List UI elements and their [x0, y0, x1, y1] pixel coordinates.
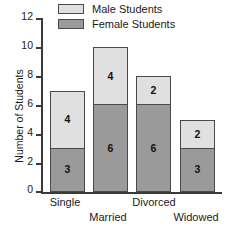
x-axis-line — [41, 192, 222, 194]
y-tick-12: 12 — [36, 18, 41, 20]
y-tick-8: 8 — [36, 76, 41, 78]
y-tick-label-0: 0 — [27, 184, 33, 195]
bar-married-segment-male: 4 — [93, 47, 128, 105]
y-axis-line — [41, 18, 43, 192]
stacked-bar-chart: Male Students Female Students Number of … — [0, 0, 227, 233]
bar-single-female-value: 3 — [65, 164, 71, 175]
bar-widowed[interactable]: 2 3 — [180, 120, 215, 193]
y-tick-2: 2 — [36, 163, 41, 165]
bar-married[interactable]: 4 6 — [93, 47, 128, 192]
bar-married-male-value: 4 — [108, 71, 114, 82]
x-label-divorced: Divorced — [120, 196, 188, 208]
x-label-widowed: Widowed — [163, 211, 227, 223]
bar-widowed-male-value: 2 — [195, 129, 201, 140]
bar-widowed-segment-female: 3 — [180, 149, 215, 193]
y-tick-label-8: 8 — [27, 69, 33, 80]
y-tick-label-2: 2 — [27, 156, 33, 167]
bar-married-female-value: 6 — [108, 143, 114, 154]
bar-married-segment-female: 6 — [93, 105, 128, 192]
y-tick-label-4: 4 — [27, 127, 33, 138]
y-tick-6: 6 — [36, 105, 41, 107]
bar-divorced-female-value: 6 — [151, 143, 157, 154]
plot-area: 12 10 8 6 4 2 0 4 3 — [41, 18, 222, 192]
bar-divorced-segment-female: 6 — [136, 105, 171, 192]
bar-widowed-segment-male: 2 — [180, 120, 215, 149]
x-label-married: Married — [78, 211, 138, 223]
y-tick-0: 0 — [36, 191, 41, 193]
y-tick-label-6: 6 — [27, 98, 33, 109]
x-label-single: Single — [35, 196, 95, 208]
y-tick-label-12: 12 — [21, 11, 33, 22]
y-tick-label-10: 10 — [21, 40, 33, 51]
y-tick-10: 10 — [36, 47, 41, 49]
legend-item-male: Male Students — [58, 2, 208, 16]
legend-swatch-male-icon — [58, 4, 84, 14]
y-axis-title: Number of Students — [13, 41, 25, 191]
bar-widowed-female-value: 3 — [195, 164, 201, 175]
y-tick-4: 4 — [36, 134, 41, 136]
bar-divorced-male-value: 2 — [151, 85, 157, 96]
bar-single-male-value: 4 — [65, 114, 71, 125]
bar-single-segment-female: 3 — [50, 149, 85, 193]
bar-single-segment-male: 4 — [50, 91, 85, 149]
bar-divorced-segment-male: 2 — [136, 76, 171, 105]
bar-single[interactable]: 4 3 — [50, 91, 85, 193]
bar-divorced[interactable]: 2 6 — [136, 76, 171, 192]
legend-label-male: Male Students — [92, 4, 162, 15]
